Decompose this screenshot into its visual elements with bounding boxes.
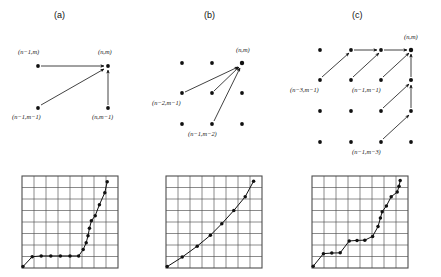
data-point-marker [103,191,107,195]
node-label-nm: (n,m) [98,48,112,55]
data-point-marker [84,241,88,245]
panel-b-lattice [180,61,244,126]
node-label-n-1m-2: (n−1,m−2) [188,130,217,137]
lattice-dot [349,109,353,113]
lattice-dot [379,140,383,144]
lattice-dot [106,106,110,110]
data-point-marker [380,210,384,214]
data-point-marker [232,209,236,213]
data-point-marker [21,265,25,269]
node-label-nm: (n,m) [236,46,250,53]
panel-a-arrows [41,66,108,105]
lattice-dot [349,140,353,144]
node-label-nm-1: (n,m−1) [92,113,113,120]
lattice-dot [379,78,383,82]
data-point-marker [59,254,63,257]
lattice-dot [240,91,244,95]
data-point-marker [311,265,315,269]
arrow-n1m3-to-nm2 [383,115,409,139]
data-point-marker [81,248,85,252]
lattice-dot [36,64,40,68]
data-point-marker [252,179,256,183]
panel-c-lattice [318,48,413,144]
data-point-marker [385,204,389,208]
arrow-n2m1-to-n1m [353,53,379,77]
data-point-marker [180,255,184,259]
data-point-marker [322,252,326,256]
lattice-dot [180,122,184,126]
data-point-marker [338,251,342,255]
lattice-dot [106,64,110,68]
node-label-nm: (n,m) [404,33,418,40]
data-point-marker [49,254,53,257]
data-point-marker [86,234,90,238]
data-point-marker [39,254,43,257]
node-label-n-3m-1: (n−3,m−1) [290,86,319,93]
lattice-dot [379,109,383,113]
arrow-n1m2-to-nm [214,68,240,121]
plot-b [165,176,262,268]
data-point-marker [68,254,72,257]
data-point-marker [243,195,247,199]
data-point-marker [90,219,94,223]
arrow-n1m1-to-nm [41,69,104,105]
data-point-marker [30,255,34,259]
data-point-marker [195,244,199,248]
figure-svg [0,0,441,277]
data-point-marker [88,227,92,231]
data-point-marker [77,254,81,257]
lattice-dot [210,91,214,95]
data-point-marker [330,251,334,255]
arrow-n3m1-to-n2m [322,53,349,77]
node-label-n-1m-1: (n−1,m−1) [352,86,381,93]
data-point-marker [398,179,402,183]
panel-a-lattice [36,64,110,110]
data-point-marker [347,239,351,243]
plot-a [21,176,118,268]
panel-b-dots [180,61,244,126]
data-point-marker [98,203,102,207]
lattice-dot [240,61,244,65]
lattice-dot [318,78,322,82]
data-point-marker [355,239,359,243]
lattice-dot [349,78,353,82]
data-point-marker [220,222,224,226]
lattice-dot [240,122,244,126]
arrow-n1m1-to-nm [383,53,409,77]
lattice-dot [379,48,383,52]
lattice-dot [318,109,322,113]
node-label-n-1m: (n−1,m) [18,48,39,55]
lattice-dot [36,106,40,110]
data-point-marker [371,235,375,239]
data-point-marker [397,185,401,189]
data-point-marker [389,195,393,199]
panel-c-arrows [322,50,411,139]
lattice-dot [409,78,413,82]
data-point-marker [379,216,383,220]
figure-container: (a) (b) (c) [0,0,441,277]
data-point-marker [209,233,213,237]
plot-c [311,176,408,268]
lattice-dot [318,48,322,52]
data-point-marker [165,265,169,269]
data-point-marker [376,225,380,229]
lattice-dot [180,61,184,65]
data-point-marker [363,238,367,242]
data-point-marker [93,214,97,218]
data-point-marker [395,190,399,194]
lattice-dot [349,48,353,52]
lattice-dot [180,91,184,95]
lattice-dot [318,140,322,144]
node-label-n-1m-3: (n−1,m−3) [352,148,381,155]
lattice-dot [409,140,413,144]
lattice-dot [210,61,214,65]
data-point-marker [105,180,109,184]
arrow-n1m1-to-nm [214,67,239,91]
lattice-dot [409,109,413,113]
lattice-dot [210,122,214,126]
node-label-n-2m-1: (n−2,m−1) [152,99,181,106]
node-label-n-1m-1: (n−1,m−1) [12,113,41,120]
lattice-dot [409,48,413,52]
arrow-n1m2-to-nm1 [383,84,409,108]
